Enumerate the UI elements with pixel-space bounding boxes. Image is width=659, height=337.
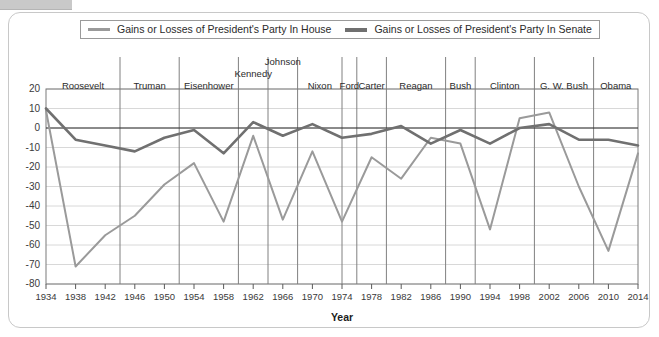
president-label: Kennedy — [234, 69, 272, 79]
x-axis-tick-label: 2006 — [568, 292, 589, 302]
president-dividers — [120, 57, 594, 284]
y-axis-tick-label: 10 — [9, 104, 40, 114]
president-label: Obama — [600, 81, 631, 91]
chart-card: Gains or Losses of President's Party In … — [8, 12, 650, 328]
x-axis-tick-label: 1958 — [213, 292, 234, 302]
chart-plot — [9, 13, 651, 329]
president-label: Truman — [133, 81, 165, 91]
x-axis-tick-label: 1946 — [124, 292, 145, 302]
x-axis-tick-label: 1982 — [391, 292, 412, 302]
x-axis-tick-label: 1970 — [302, 292, 323, 302]
x-axis-ticks — [46, 284, 638, 289]
president-label: Roosevelt — [62, 81, 104, 91]
president-label: Johnson — [265, 57, 301, 67]
x-axis-tick-label: 2002 — [539, 292, 560, 302]
x-axis-tick-label: 1986 — [420, 292, 441, 302]
x-axis-tick-label: 1954 — [183, 292, 204, 302]
screenshot-root: Gains or Losses of President's Party In … — [0, 0, 659, 337]
x-axis-tick-label: 1978 — [361, 292, 382, 302]
x-axis-tick-label: 1950 — [154, 292, 175, 302]
x-axis-tick-label: 2010 — [598, 292, 619, 302]
president-label: Ford — [340, 81, 360, 91]
president-label: Reagan — [399, 81, 432, 91]
y-axis-tick-label: 0 — [9, 123, 40, 133]
x-axis-tick-label: 1934 — [35, 292, 56, 302]
window-top-strip — [0, 0, 72, 10]
president-label: Bush — [450, 81, 472, 91]
y-axis-tick-label: -50 — [9, 221, 40, 231]
x-axis-tick-label: 1942 — [95, 292, 116, 302]
x-axis-tick-label: 1966 — [272, 292, 293, 302]
x-axis-title: Year — [331, 311, 353, 323]
y-axis-tick-label: -80 — [9, 279, 40, 289]
x-axis-tick-label: 1974 — [331, 292, 352, 302]
y-axis-tick-label: -10 — [9, 143, 40, 153]
president-label: Carter — [358, 81, 384, 91]
president-label: Nixon — [308, 81, 332, 91]
x-axis-tick-label: 1994 — [479, 292, 500, 302]
president-label: Eisenhower — [184, 81, 234, 91]
x-axis-tick-label: 1938 — [65, 292, 86, 302]
y-axis-tick-label: 20 — [9, 84, 40, 94]
x-axis-tick-label: 1962 — [243, 292, 264, 302]
y-axis-tick-label: -20 — [9, 162, 40, 172]
x-axis-tick-label: 1990 — [450, 292, 471, 302]
y-axis-tick-label: -30 — [9, 182, 40, 192]
y-axis-tick-label: -40 — [9, 201, 40, 211]
x-axis-tick-label: 2014 — [627, 292, 648, 302]
x-axis-tick-label: 1998 — [509, 292, 530, 302]
president-label: Clinton — [490, 81, 520, 91]
president-label: G. W. Bush — [540, 81, 588, 91]
y-axis-tick-label: -60 — [9, 240, 40, 250]
plot-area-wrapper: 20100-10-20-30-40-50-60-70-80RooseveltTr… — [9, 13, 651, 329]
y-axis-tick-label: -70 — [9, 260, 40, 270]
